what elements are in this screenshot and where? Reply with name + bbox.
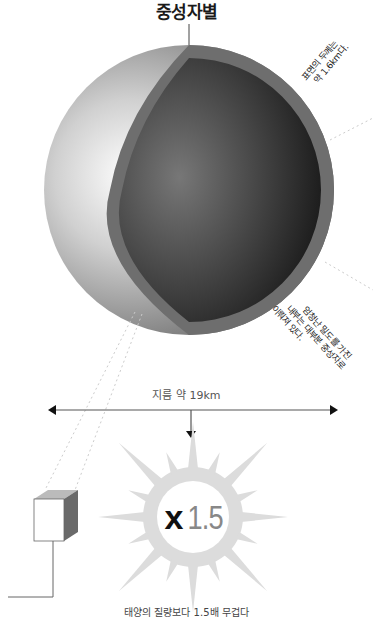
cube-icon — [8, 490, 78, 597]
mass-multiplier: x1.5 — [148, 498, 244, 537]
diameter-label: 지름 약 19km — [0, 386, 373, 402]
multiplier-symbol: x — [164, 498, 183, 536]
neutron-star-sphere — [44, 45, 334, 335]
multiplier-value: 1.5 — [188, 498, 223, 537]
mass-caption: 태양의 질량보다 1.5배 무겁다 — [0, 604, 373, 619]
